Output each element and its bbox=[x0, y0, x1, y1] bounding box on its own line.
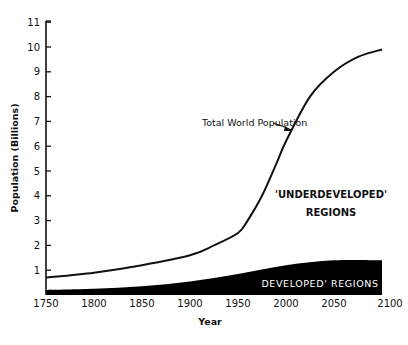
y-tick-label: 8 bbox=[34, 91, 40, 102]
x-tick-label: 1950 bbox=[225, 298, 250, 309]
y-tick-label: 2 bbox=[34, 240, 40, 251]
x-tick-label: 1800 bbox=[81, 298, 106, 309]
x-axis-ticks: 17501800185019001950200020502100 bbox=[33, 298, 402, 309]
y-tick-label: 11 bbox=[27, 17, 40, 28]
x-tick-label: 2100 bbox=[377, 298, 402, 309]
y-tick-label: 7 bbox=[34, 116, 40, 127]
y-axis-ticks: 1234567891011 bbox=[27, 17, 51, 276]
underdeveloped-label-line2: REGIONS bbox=[306, 207, 357, 218]
y-tick-label: 4 bbox=[34, 190, 40, 201]
y-tick-label: 9 bbox=[34, 66, 40, 77]
x-tick-label: 2000 bbox=[273, 298, 298, 309]
total-population-annotation: Total World Population bbox=[201, 117, 307, 128]
x-tick-label: 1750 bbox=[33, 298, 58, 309]
underdeveloped-label-line1: 'UNDERDEVELOPED' bbox=[275, 189, 387, 200]
y-tick-label: 1 bbox=[34, 265, 40, 276]
y-tick-label: 3 bbox=[34, 215, 40, 226]
x-tick-label: 2050 bbox=[321, 298, 346, 309]
x-tick-label: 1900 bbox=[177, 298, 202, 309]
x-tick-label: 1850 bbox=[129, 298, 154, 309]
y-tick-label: 6 bbox=[34, 141, 40, 152]
total-population-line bbox=[46, 50, 382, 278]
y-tick-label: 5 bbox=[34, 166, 40, 177]
developed-label: DEVELOPED' REGIONS bbox=[261, 278, 378, 289]
x-axis-title: Year bbox=[197, 316, 222, 327]
population-chart: 1234567891011 17501800185019001950200020… bbox=[0, 0, 408, 345]
y-tick-label: 10 bbox=[27, 42, 40, 53]
y-axis-title: Population (Billions) bbox=[9, 103, 20, 212]
